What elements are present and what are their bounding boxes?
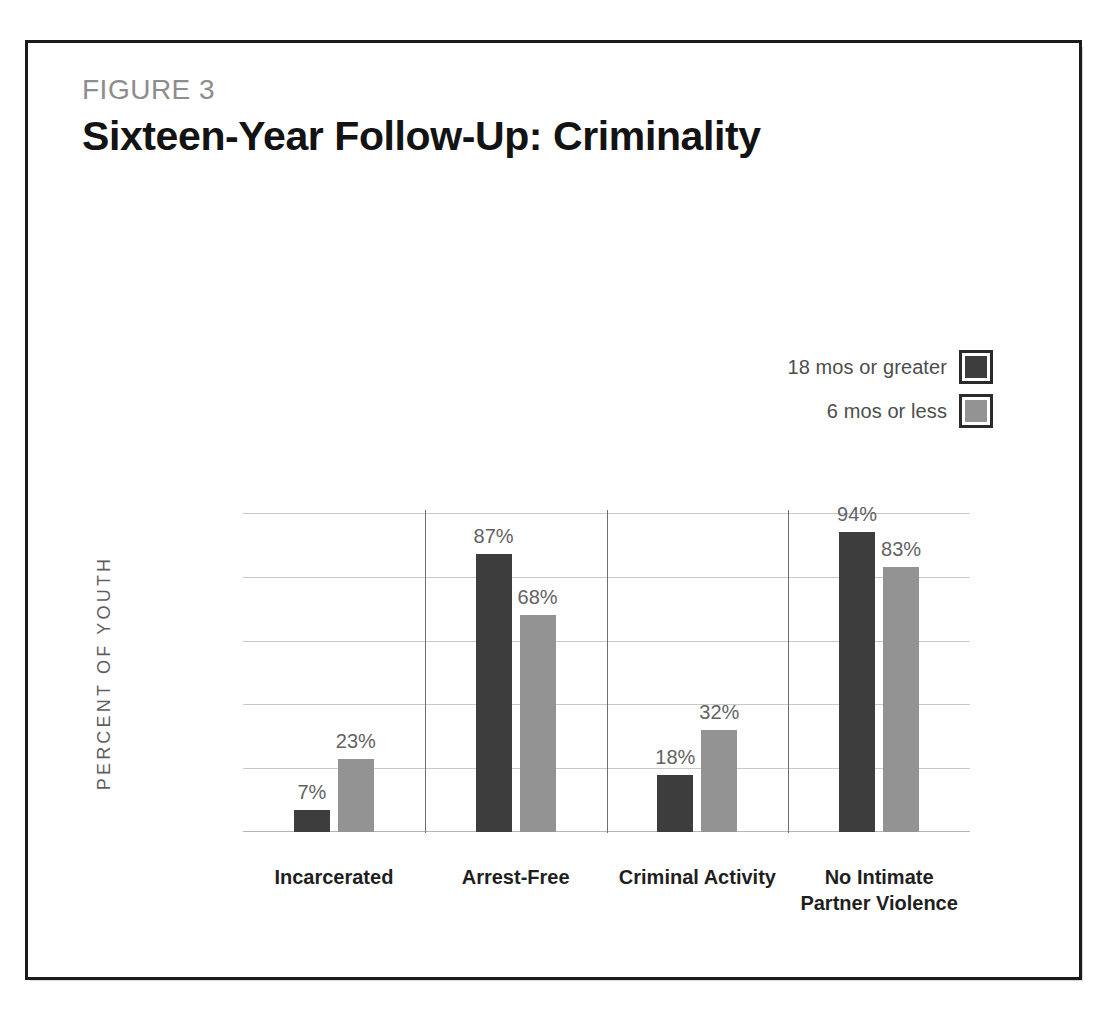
x-axis-category-line: Partner Violence — [800, 890, 957, 916]
bar-slot: 83% — [883, 513, 919, 832]
bar-slot: 7% — [294, 513, 330, 832]
bar-slot: 94% — [839, 513, 875, 832]
bar-group: 87%68% — [425, 513, 607, 832]
bar-value-label: 83% — [881, 538, 921, 561]
bar-value-label: 32% — [699, 701, 739, 724]
bar-slot: 68% — [520, 513, 556, 832]
bar-group: 94%83% — [788, 513, 970, 832]
bar-chart: PERCENT OF YOUTH 020%40%60%80%100% 7%23%… — [0, 0, 1119, 1024]
bar-value-label: 94% — [837, 503, 877, 526]
bar-slot: 23% — [338, 513, 374, 832]
x-axis-category-line: No Intimate — [800, 864, 957, 890]
bar-value-label: 7% — [297, 781, 326, 804]
x-axis-category-label: Incarcerated — [274, 864, 393, 890]
bar-value-label: 68% — [518, 586, 558, 609]
x-axis-category-label: Criminal Activity — [619, 864, 776, 890]
bar-light[interactable] — [701, 730, 737, 832]
bar-slot: 32% — [701, 513, 737, 832]
y-axis-ticks: 020%40%60%80%100% — [0, 513, 1, 832]
x-axis-category-label: No IntimatePartner Violence — [800, 864, 957, 917]
y-axis-title: PERCENT OF YOUTH — [94, 556, 115, 791]
bar-group: 18%32% — [607, 513, 789, 832]
x-axis-category-line: Incarcerated — [274, 864, 393, 890]
bar-value-label: 23% — [336, 730, 376, 753]
bar-light[interactable] — [883, 567, 919, 832]
bar-light[interactable] — [520, 615, 556, 832]
x-axis-category-line: Arrest-Free — [462, 864, 570, 890]
bar-dark[interactable] — [294, 810, 330, 832]
bar-dark[interactable] — [839, 532, 875, 832]
bar-value-label: 18% — [655, 746, 695, 769]
bar-light[interactable] — [338, 759, 374, 832]
plot-area: 7%23%87%68%18%32%94%83% — [243, 513, 970, 832]
x-axis-category-line: Criminal Activity — [619, 864, 776, 890]
bar-value-label: 87% — [474, 525, 514, 548]
bar-slot: 18% — [657, 513, 693, 832]
bar-group: 7%23% — [243, 513, 425, 832]
bar-dark[interactable] — [476, 554, 512, 832]
bar-dark[interactable] — [657, 775, 693, 832]
x-axis-category-label: Arrest-Free — [462, 864, 570, 890]
bar-slot: 87% — [476, 513, 512, 832]
